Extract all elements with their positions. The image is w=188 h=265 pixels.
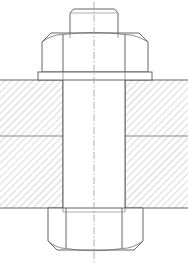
- bolted-joint-section-drawing: [0, 0, 188, 265]
- upper-hex-nut: [42, 33, 148, 73]
- lower-hex-nut: [48, 208, 143, 251]
- plain-washer: [38, 72, 152, 80]
- technical-drawing-canvas: Bolted Joint Sectional Assembly front el…: [0, 0, 188, 265]
